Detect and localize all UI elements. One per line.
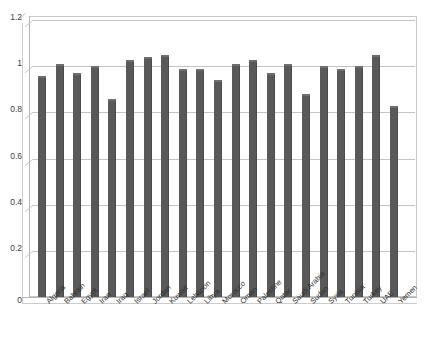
bar-top-face — [126, 60, 134, 62]
bar[interactable] — [372, 57, 380, 297]
bar[interactable] — [73, 75, 81, 297]
plot-area — [33, 20, 415, 297]
bar[interactable] — [337, 71, 345, 297]
bar[interactable] — [267, 75, 275, 297]
bar[interactable] — [108, 101, 116, 297]
bar-top-face — [56, 64, 64, 66]
bar-chart: 00.20.40.60.811.2 AlgeriaBahrainEgyptIra… — [0, 0, 425, 352]
y-tick-label: 0.8 — [0, 105, 22, 114]
bar-top-face — [179, 69, 187, 71]
bar-top-face — [302, 94, 310, 96]
bar-series — [33, 20, 415, 297]
bar[interactable] — [91, 68, 99, 297]
y-tick-label: 1 — [0, 59, 22, 68]
bar[interactable] — [196, 71, 204, 297]
y-tick-label: 0.4 — [0, 198, 22, 207]
bar-top-face — [144, 57, 152, 59]
bar-top-face — [355, 66, 363, 68]
bar-top-face — [73, 73, 81, 75]
bar-top-face — [372, 55, 380, 57]
bar[interactable] — [232, 66, 240, 297]
bar[interactable] — [320, 68, 328, 297]
bar[interactable] — [355, 68, 363, 297]
y-tick-label: 0.6 — [0, 152, 22, 161]
bar[interactable] — [38, 78, 46, 297]
y-tick-label: 1.2 — [0, 13, 22, 22]
bar[interactable] — [302, 96, 310, 297]
bar[interactable] — [56, 66, 64, 297]
bar-top-face — [267, 73, 275, 75]
bar[interactable] — [390, 108, 398, 297]
bar[interactable] — [144, 59, 152, 297]
bar-top-face — [249, 60, 257, 62]
bar[interactable] — [214, 82, 222, 297]
bar-top-face — [108, 99, 116, 101]
bar[interactable] — [284, 66, 292, 297]
y-tick-label: 0.2 — [0, 244, 22, 253]
bar-top-face — [214, 80, 222, 82]
bar-top-face — [284, 64, 292, 66]
bar-top-face — [320, 66, 328, 68]
bar-top-face — [390, 106, 398, 108]
bar-top-face — [161, 55, 169, 57]
bar-top-face — [91, 66, 99, 68]
bar[interactable] — [249, 62, 257, 297]
bar-top-face — [196, 69, 204, 71]
bar[interactable] — [161, 57, 169, 297]
x-axis-tick-labels: AlgeriaBahrainEgyptIranIraqIsraelJordanK… — [0, 300, 425, 352]
bar-top-face — [232, 64, 240, 66]
bar-top-face — [38, 76, 46, 78]
bar[interactable] — [179, 71, 187, 297]
bar[interactable] — [126, 62, 134, 297]
bar-top-face — [337, 69, 345, 71]
